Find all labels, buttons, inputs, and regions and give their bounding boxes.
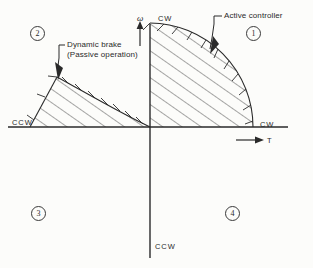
cw-top-label: CW [158,14,172,23]
dynamic-brake-leader [55,45,65,80]
cw-right-label: CW [260,120,274,129]
quadrant-marker-3: 3 [31,206,46,221]
quadrant-marker-1: 1 [246,26,261,41]
active-controller-line1: Active controller [224,11,283,21]
omega-axis-label: ω [137,14,143,24]
quadrant-marker-2: 2 [30,26,45,41]
quadrant-2-hatch [26,72,154,130]
dynamic-brake-annotation: Dynamic brake (Passive operation) [67,40,138,60]
dynamic-brake-line1: Dynamic brake [67,40,138,50]
diagram-canvas [0,0,313,268]
torque-speed-quadrant-figure: ω CW CCW CCW CW T Active controller Dyna… [0,0,313,268]
ccw-bottom-label: CCW [155,242,176,251]
ccw-left-label: CCW [12,118,33,127]
active-controller-annotation: Active controller [224,11,283,21]
quadrant-marker-4: 4 [225,206,240,221]
torque-axis-arrow [236,136,264,143]
quadrant-1-hatch [148,20,258,130]
torque-axis-label: T [267,136,272,145]
dynamic-brake-line2: (Passive operation) [67,50,138,60]
